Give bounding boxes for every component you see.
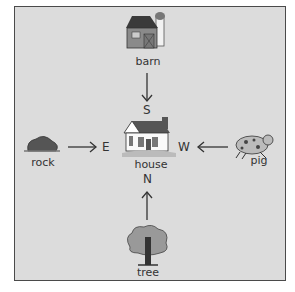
barn-label: barn: [128, 56, 168, 68]
arrow-down-icon: [141, 73, 153, 103]
rock-icon: [24, 133, 60, 155]
direction-east: E: [102, 141, 110, 154]
arrow-left-icon: [196, 141, 228, 153]
pig-label: pig: [244, 155, 274, 167]
rock-label: rock: [26, 157, 60, 169]
arrow-up-icon: [141, 190, 153, 220]
barn-icon: [124, 10, 170, 54]
house-icon: [122, 117, 176, 157]
direction-south: S: [143, 104, 151, 117]
direction-west: W: [178, 141, 190, 154]
tree-label: tree: [130, 267, 166, 279]
direction-north: N: [143, 173, 152, 186]
house-label: house: [128, 159, 174, 171]
tree-icon: [124, 223, 172, 267]
arrow-right-icon: [68, 141, 98, 153]
